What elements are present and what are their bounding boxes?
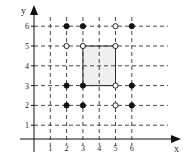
filled-point (129, 24, 134, 29)
x-tick-label: 4 (97, 144, 101, 153)
coordinate-grid-diagram: x y 123456123456 (0, 0, 188, 162)
open-point (80, 43, 85, 48)
x-tick-label: 3 (81, 144, 85, 153)
x-tick-label: 5 (114, 144, 118, 153)
open-point (64, 43, 69, 48)
y-tick-label: 2 (25, 101, 29, 110)
open-point (113, 43, 118, 48)
x-tick-label: 1 (48, 144, 52, 153)
filled-point (64, 103, 69, 108)
x-tick-label: 2 (65, 144, 69, 153)
y-tick-label: 3 (25, 82, 29, 91)
open-point (113, 83, 118, 88)
y-tick-label: 6 (25, 22, 29, 31)
filled-point (80, 103, 85, 108)
y-tick-label: 4 (25, 62, 29, 71)
y-axis-arrow-icon (30, 5, 38, 15)
filled-point (129, 103, 134, 108)
x-axis-label: x (174, 143, 179, 154)
x-tick-label: 6 (130, 144, 134, 153)
filled-point (80, 83, 85, 88)
filled-point (64, 83, 69, 88)
x-axis-arrow-icon (171, 135, 181, 143)
y-tick-label: 1 (25, 121, 29, 130)
filled-point (129, 83, 134, 88)
filled-point (80, 24, 85, 29)
open-point (113, 103, 118, 108)
y-axis-label: y (21, 5, 26, 16)
y-tick-label: 5 (25, 42, 29, 51)
open-point (113, 24, 118, 29)
filled-point (64, 24, 69, 29)
